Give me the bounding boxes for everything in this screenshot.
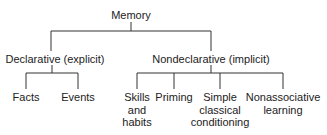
node-classical-conditioning: Simple classical conditioning	[191, 91, 250, 129]
node-nondeclarative: Nondeclarative (implicit)	[152, 53, 269, 66]
node-skills-habits: Skills and habits	[122, 91, 151, 129]
node-simple-line2: classical	[191, 104, 250, 117]
node-facts: Facts	[13, 91, 40, 104]
node-simple-line3: conditioning	[191, 116, 250, 129]
node-declarative: Declarative (explicit)	[5, 53, 104, 66]
node-priming: Priming	[155, 91, 192, 104]
node-nonassoc-line2: learning	[246, 104, 321, 117]
node-skills-line2: and	[122, 104, 151, 117]
node-skills-line3: habits	[122, 116, 151, 129]
node-nonassociative-learning: Nonassociative learning	[246, 91, 321, 116]
node-skills-line1: Skills	[122, 91, 151, 104]
node-simple-line1: Simple	[191, 91, 250, 104]
node-nonassoc-line1: Nonassociative	[246, 91, 321, 104]
node-memory: Memory	[111, 9, 151, 22]
node-events: Events	[61, 91, 95, 104]
